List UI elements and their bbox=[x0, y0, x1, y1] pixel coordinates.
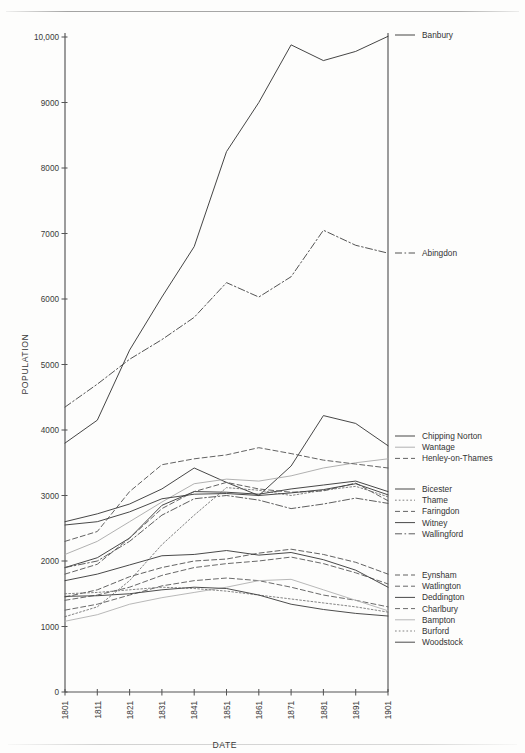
x-tick-label: 1871 bbox=[287, 701, 296, 720]
x-tick-label: 1841 bbox=[190, 701, 199, 720]
x-tick-label: 1891 bbox=[352, 701, 361, 720]
series-line-bicester bbox=[65, 481, 388, 567]
series-line-witney bbox=[65, 484, 388, 525]
x-axis-title: DATE bbox=[213, 740, 238, 750]
series-line-eynsham bbox=[65, 549, 388, 597]
chart-page: 010002000300040005000600070008000900010,… bbox=[0, 0, 525, 753]
legend-label-wallingford: Wallingford bbox=[422, 529, 464, 539]
legend-label-eynsham: Eynsham bbox=[422, 570, 457, 580]
legend-label-watlington: Watlington bbox=[422, 581, 461, 591]
legend-label-henley-on-thames: Henley-on-Thames bbox=[422, 453, 493, 463]
y-tick-label: 4000 bbox=[41, 426, 60, 435]
legend-label-charlbury: Charlbury bbox=[422, 604, 459, 614]
y-tick-label: 6000 bbox=[41, 295, 60, 304]
series-line-deddington bbox=[65, 551, 388, 588]
series-line-bampton bbox=[65, 579, 388, 621]
x-tick-label: 1861 bbox=[255, 701, 264, 720]
series-line-wantage bbox=[65, 459, 388, 555]
legend-label-chipping-norton: Chipping Norton bbox=[422, 431, 482, 441]
series-line-banbury bbox=[65, 36, 388, 443]
x-tick-label: 1881 bbox=[320, 701, 329, 720]
series-line-henley-on-thames bbox=[65, 448, 388, 542]
legend-label-thame: Thame bbox=[422, 495, 448, 505]
legend-label-bicester: Bicester bbox=[422, 484, 452, 494]
y-tick-label: 10,000 bbox=[34, 33, 59, 42]
y-tick-label: 5000 bbox=[41, 361, 60, 370]
y-tick-label: 8000 bbox=[41, 164, 60, 173]
y-tick-label: 2000 bbox=[41, 557, 60, 566]
series-line-chipping-norton bbox=[65, 416, 388, 522]
x-tick-label: 1801 bbox=[61, 701, 70, 720]
y-tick-label: 9000 bbox=[41, 99, 60, 108]
legend-label-banbury: Banbury bbox=[422, 30, 454, 40]
legend-label-faringdon: Faringdon bbox=[422, 506, 460, 516]
legend-label-wantage: Wantage bbox=[422, 442, 455, 452]
y-tick-label: 7000 bbox=[41, 230, 60, 239]
x-tick-label: 1901 bbox=[384, 701, 393, 720]
legend-label-deddington: Deddington bbox=[422, 592, 465, 602]
x-tick-label: 1851 bbox=[223, 701, 232, 720]
series-line-faringdon bbox=[65, 482, 388, 574]
population-line-chart: 010002000300040005000600070008000900010,… bbox=[0, 0, 525, 753]
y-tick-label: 1000 bbox=[41, 623, 60, 632]
legend-label-abingdon: Abingdon bbox=[422, 248, 457, 258]
legend-label-burford: Burford bbox=[422, 626, 450, 636]
legend-label-woodstock: Woodstock bbox=[422, 637, 464, 647]
series-line-abingdon bbox=[65, 230, 388, 407]
x-tick-label: 1811 bbox=[94, 701, 103, 719]
y-tick-label: 3000 bbox=[41, 492, 60, 501]
x-tick-label: 1831 bbox=[158, 701, 167, 720]
y-axis-title: POPULATION bbox=[20, 334, 30, 395]
legend-label-bampton: Bampton bbox=[422, 615, 456, 625]
x-tick-label: 1821 bbox=[126, 701, 135, 720]
y-tick-label: 0 bbox=[54, 688, 59, 697]
legend-label-witney: Witney bbox=[422, 518, 448, 528]
